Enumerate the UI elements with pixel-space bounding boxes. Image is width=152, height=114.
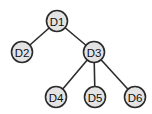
node-d3: D3 [84, 42, 105, 63]
node-label: D2 [15, 47, 30, 59]
node-d2: D2 [12, 42, 33, 63]
nodes-layer: D1D2D3D4D5D6 [12, 11, 146, 108]
tree-diagram: D1D2D3D4D5D6 [0, 0, 152, 114]
node-d4: D4 [46, 87, 67, 108]
edges-layer [22, 21, 135, 97]
node-label: D6 [128, 92, 143, 104]
node-label: D4 [49, 92, 64, 104]
node-d5: D5 [85, 87, 106, 108]
node-label: D1 [50, 16, 65, 28]
node-label: D5 [88, 92, 103, 104]
node-d6: D6 [125, 87, 146, 108]
node-label: D3 [87, 47, 102, 59]
node-d1: D1 [47, 11, 68, 32]
